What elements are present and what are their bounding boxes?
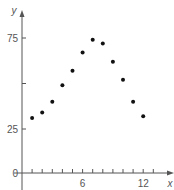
y-axis-label: y xyxy=(11,5,18,16)
scatter-chart: yx61202575 xyxy=(0,0,174,190)
y-tick-label: 25 xyxy=(7,124,19,135)
chart-svg: yx61202575 xyxy=(0,0,174,190)
y-tick-label: 0 xyxy=(12,168,18,179)
data-point xyxy=(60,83,64,87)
x-axis-label: x xyxy=(167,178,174,189)
y-axis-arrow-icon xyxy=(20,10,25,17)
y-tick-label: 75 xyxy=(7,33,19,44)
x-axis-arrow-icon xyxy=(167,171,174,176)
data-point xyxy=(30,116,34,120)
data-point xyxy=(131,100,135,104)
data-point xyxy=(101,41,105,45)
data-point xyxy=(71,69,75,73)
data-point xyxy=(40,111,44,115)
data-point xyxy=(111,60,115,64)
data-point xyxy=(81,51,85,55)
data-point xyxy=(141,114,145,118)
data-point xyxy=(50,100,54,104)
data-point xyxy=(121,78,125,82)
x-tick-label: 6 xyxy=(80,178,86,189)
data-point xyxy=(91,38,95,42)
x-tick-label: 12 xyxy=(138,178,150,189)
